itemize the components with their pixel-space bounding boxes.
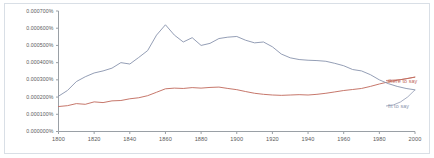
y-axis-tick-label: 0.000700% [26, 8, 53, 14]
x-axis-tick-label: 1840 [116, 136, 144, 142]
x-axis-tick-label: 1880 [187, 136, 215, 142]
y-axis-tick-label: 0.000500% [26, 42, 53, 48]
y-axis-tick-label: 0.000400% [26, 59, 53, 65]
y-axis-tick-label: 0.000300% [26, 76, 53, 82]
x-axis-tick-label: 1800 [45, 136, 73, 142]
x-axis-tick-label: 1900 [223, 136, 251, 142]
y-axis-tick-label: 0.000000% [26, 128, 53, 134]
x-axis-tick-label: 1940 [294, 136, 322, 142]
x-axis-tick-label: 1960 [330, 136, 358, 142]
x-axis-tick-label: 1980 [365, 136, 393, 142]
plot-area [0, 0, 434, 158]
y-axis-tick-label: 0.000600% [26, 25, 53, 31]
x-axis-tick-label: 2000 [401, 136, 429, 142]
ngram-chart: 0.000000%0.000100%0.000200%0.000300%0.00… [0, 0, 434, 158]
series-line-1 [59, 25, 416, 96]
series-label-fit-to-say: fit to say [388, 103, 409, 109]
series-line-0 [59, 77, 416, 106]
series-lines [59, 25, 416, 107]
x-axis-tick-label: 1920 [258, 136, 286, 142]
series-label-there-to-say: there to say [388, 78, 417, 84]
y-axis-tick-label: 0.000200% [26, 94, 53, 100]
x-axis-tick-label: 1820 [80, 136, 108, 142]
x-axis-tick-label: 1860 [151, 136, 179, 142]
y-axis-tick-label: 0.000100% [26, 111, 53, 117]
